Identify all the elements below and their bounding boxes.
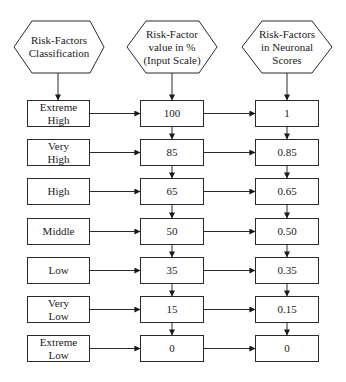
classification-box: Low [27, 257, 90, 284]
classification-box: Extreme Low [27, 335, 90, 362]
score-box: 0.35 [255, 257, 319, 284]
score-box: 0.15 [255, 296, 319, 323]
classification-box: Very Low [27, 296, 90, 323]
classification-box: Middle [27, 218, 90, 245]
score-box: 0.85 [255, 139, 319, 166]
percent-box: 85 [140, 139, 204, 166]
percent-box: 65 [140, 178, 204, 205]
percent-box: 50 [140, 218, 204, 245]
classification-box: Very High [27, 139, 90, 166]
percent-box: 15 [140, 296, 204, 323]
header-label-classification: Risk-Factors Classification [22, 21, 96, 73]
header-label-input-scale: Risk-Factor value in % (Input Scale) [135, 21, 209, 73]
score-box: 0.65 [255, 178, 319, 205]
percent-box: 35 [140, 257, 204, 284]
percent-box: 100 [140, 100, 204, 127]
classification-box: High [27, 178, 90, 205]
score-box: 0 [255, 335, 319, 362]
header-label-neuronal-scores: Risk-Factors in Neuronal Scores [250, 21, 324, 73]
score-box: 0.50 [255, 218, 319, 245]
score-box: 1 [255, 100, 319, 127]
percent-box: 0 [140, 335, 204, 362]
classification-box: Extreme High [27, 100, 90, 127]
